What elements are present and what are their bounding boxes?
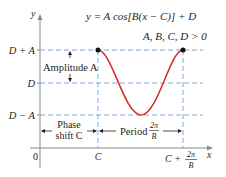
amplitude-up-arrow-icon [68,51,72,55]
period-right-arrow-icon [178,129,182,133]
phase-right-arrow-icon [93,129,97,133]
x-tick-end-num: 2π [187,150,196,159]
x-tick-end-den: B [189,161,194,170]
phase-label-line2: shift C [56,130,83,141]
x-axis-label: x [206,149,212,160]
amplitude-down-arrow-icon [68,78,72,82]
y-label-max: D + A [8,45,36,56]
period-frac-den: B [152,132,157,141]
x-tick-end-prefix: C + [165,153,181,164]
amplitude-label: Amplitude A [43,62,98,73]
condition-label: A, B, C, D > 0 [142,30,207,42]
max-point-right [181,48,186,53]
y-label-mid: D [26,78,35,89]
period-left-arrow-icon [99,129,103,133]
phase-left-arrow-icon [41,129,45,133]
cosine-graph: y = A cos[B(x − C)] + D A, B, C, D > 0 y… [0,0,226,177]
phase-label-line1: Phase [57,119,81,130]
max-point-left [96,48,101,53]
y-axis-label: y [30,8,36,19]
x-tick-c: C [95,151,102,162]
period-frac-num: 2π [150,121,159,130]
equation-label: y = A cos[B(x − C)] + D [85,10,196,23]
y-axis-arrow-icon [38,14,43,20]
period-label: Period [120,126,148,137]
origin-label: 0 [33,151,38,162]
y-label-min: D − A [8,110,36,121]
